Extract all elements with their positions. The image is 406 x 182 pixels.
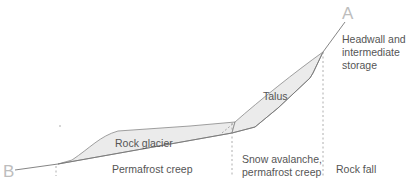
endpoint-b-label: B xyxy=(3,163,14,180)
rock-glacier-label: Rock glacier xyxy=(115,137,173,150)
ground-profile xyxy=(15,22,345,170)
zone-rockfall-label: Rock fall xyxy=(336,163,376,176)
zone-snow-label: Snow avalanche, permafrost creep xyxy=(242,153,322,179)
endpoint-a-label: A xyxy=(342,5,353,22)
headwall-line3: storage xyxy=(342,59,406,72)
headwall-label: Headwall and intermediate storage xyxy=(342,33,406,72)
zone-snow-line1: Snow avalanche, xyxy=(242,153,322,166)
talus-label: Talus xyxy=(263,90,288,103)
zone-permafrost-label: Permafrost creep xyxy=(112,163,193,176)
zone-snow-line2: permafrost creep xyxy=(242,166,322,179)
headwall-line2: intermediate xyxy=(342,46,406,59)
headwall-line1: Headwall and xyxy=(342,33,406,46)
